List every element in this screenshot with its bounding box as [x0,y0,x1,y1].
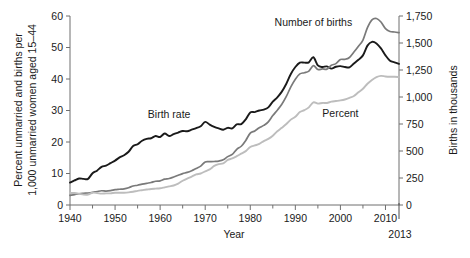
right-tick-label: 1,500 [406,37,432,49]
x-axis-tick-labels: 19401950196019701980199020002010 [58,212,397,224]
series-inline-labels: Birth rateNumber of birthsPercent [148,16,359,121]
x-axis-ticks [70,205,385,210]
x-tick-label: 2010 [374,212,398,224]
left-axis-ticks [66,16,70,205]
left-tick-label: 30 [51,104,63,116]
right-tick-label: 1,750 [406,10,432,22]
left-tick-label: 20 [51,136,63,148]
left-tick-label: 0 [57,199,63,211]
left-tick-label: 40 [51,73,63,85]
y-axis-left-title-line1: Percent unmarried and births per [12,33,24,187]
series-line-percent [70,76,399,195]
left-axis-tick-labels: 0102030405060 [51,10,63,211]
right-tick-label: 500 [406,145,424,157]
birth-statistics-chart: 0102030405060 02505007501,0001,2501,5001… [0,0,470,258]
right-tick-label: 1,000 [406,91,432,103]
x-tick-label: 1970 [194,212,218,224]
left-tick-label: 50 [51,41,63,53]
right-axis: 02505007501,0001,2501,5001,750 [399,10,432,211]
right-tick-label: 1,250 [406,64,432,76]
x-tick-label: 1960 [148,212,172,224]
x-tick-label: 1990 [284,212,308,224]
right-axis-ticks [399,16,403,205]
right-axis-tick-labels: 02505007501,0001,2501,5001,750 [406,10,432,211]
y-axis-right-title: Births in thousands [447,65,459,154]
x-tick-label: 1940 [58,212,82,224]
series-label-number-of-births: Number of births [275,16,353,28]
right-tick-label: 250 [406,172,424,184]
x-axis-title: Year [223,228,245,240]
left-axis: 0102030405060 [51,10,70,211]
right-tick-label: 750 [406,118,424,130]
x-tick-label: 1950 [103,212,127,224]
x-tick-label: 2000 [329,212,353,224]
right-tick-label: 0 [406,199,412,211]
x-axis-end-label: 2013 [388,228,412,240]
x-tick-label: 1980 [239,212,263,224]
series-label-percent: Percent [322,107,358,119]
series-label-birth-rate: Birth rate [148,108,191,120]
left-tick-label: 10 [51,167,63,179]
y-axis-left-title-line2: 1,000 unmarried women aged 15–44 [26,24,38,196]
left-tick-label: 60 [51,10,63,22]
chart-canvas: 0102030405060 02505007501,0001,2501,5001… [0,0,470,258]
